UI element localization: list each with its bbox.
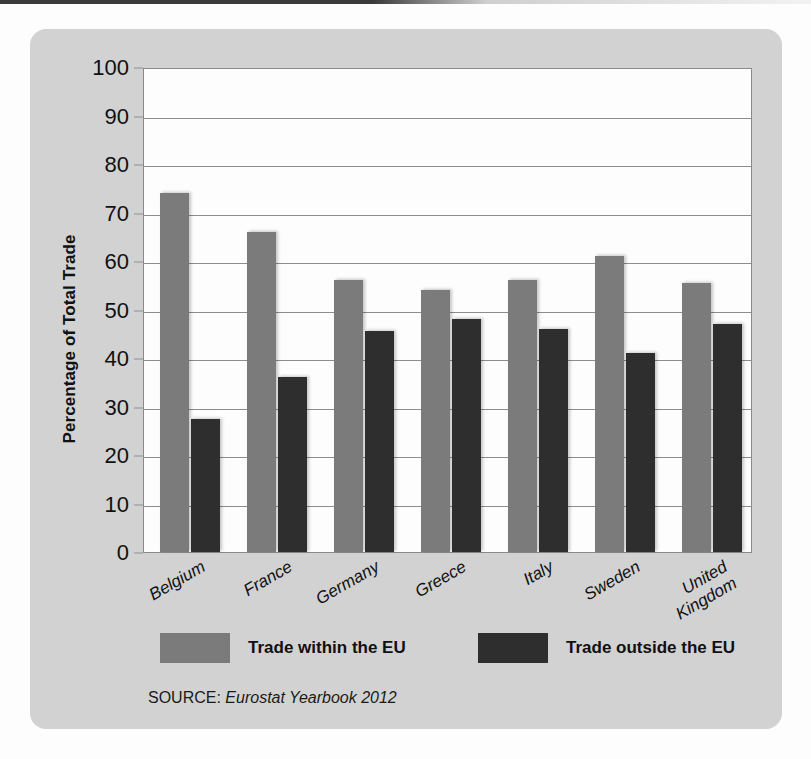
- y-axis-ticks: 0102030405060708090100: [30, 68, 143, 553]
- y-tick-label: 60: [105, 249, 129, 275]
- bar-group: [160, 69, 220, 552]
- x-axis-labels: BelgiumFranceGermanyGreeceItalySwedenUni…: [143, 557, 752, 637]
- bar-group: [682, 69, 742, 552]
- bar-group: [334, 69, 394, 552]
- bar-group: [508, 69, 568, 552]
- y-tick-mark: [134, 310, 143, 311]
- source-label: SOURCE:: [148, 689, 221, 706]
- y-tick-mark: [134, 262, 143, 263]
- bar-within-eu[interactable]: [334, 280, 363, 552]
- legend-item[interactable]: Trade outside the EU: [478, 633, 735, 663]
- source-note: SOURCE: Eurostat Yearbook 2012: [148, 689, 397, 707]
- bar-outside-eu[interactable]: [278, 377, 307, 552]
- y-tick-label: 20: [105, 443, 129, 469]
- x-tick-label: United Kingdom: [634, 557, 740, 640]
- x-tick-label: Sweden: [547, 557, 643, 623]
- bar-series-container: [144, 69, 751, 552]
- x-tick-label: Germany: [286, 557, 382, 623]
- bar-group: [247, 69, 307, 552]
- bar-outside-eu[interactable]: [191, 419, 220, 552]
- source-title: Eurostat Yearbook 2012: [225, 689, 396, 706]
- bar-outside-eu[interactable]: [365, 331, 394, 552]
- bar-outside-eu[interactable]: [539, 329, 568, 552]
- y-tick-label: 30: [105, 395, 129, 421]
- bar-outside-eu[interactable]: [626, 353, 655, 552]
- y-tick-mark: [134, 359, 143, 360]
- y-tick-label: 0: [117, 540, 129, 566]
- y-tick-mark: [134, 213, 143, 214]
- y-tick-mark: [134, 116, 143, 117]
- y-tick-mark: [134, 68, 143, 69]
- bar-outside-eu[interactable]: [713, 324, 742, 552]
- y-tick-label: 80: [105, 152, 129, 178]
- y-tick-label: 40: [105, 346, 129, 372]
- x-tick-label: Italy: [460, 557, 556, 623]
- y-tick-label: 90: [105, 104, 129, 130]
- scan-artifact-strip: [0, 0, 811, 4]
- chart-card: Percentage of Total Trade 01020304050607…: [30, 29, 782, 729]
- y-tick-label: 100: [92, 55, 129, 81]
- y-tick-mark: [134, 407, 143, 408]
- y-tick-label: 50: [105, 298, 129, 324]
- legend-swatch-within-eu: [160, 633, 230, 663]
- y-tick-mark: [134, 456, 143, 457]
- bar-within-eu[interactable]: [247, 232, 276, 552]
- y-tick-mark: [134, 165, 143, 166]
- bar-group: [421, 69, 481, 552]
- bar-within-eu[interactable]: [160, 193, 189, 552]
- x-tick-label: Greece: [373, 557, 469, 623]
- y-tick-mark: [134, 553, 143, 554]
- x-tick-label: Belgium: [112, 557, 208, 623]
- y-tick-label: 10: [105, 492, 129, 518]
- legend-swatch-outside-eu: [478, 633, 548, 663]
- x-tick-label: France: [199, 557, 295, 623]
- legend-item[interactable]: Trade within the EU: [160, 633, 406, 663]
- bar-group: [595, 69, 655, 552]
- bar-within-eu[interactable]: [508, 280, 537, 552]
- bar-within-eu[interactable]: [595, 256, 624, 552]
- bar-outside-eu[interactable]: [452, 319, 481, 552]
- legend-label: Trade outside the EU: [566, 638, 735, 658]
- y-tick-mark: [134, 504, 143, 505]
- bar-chart-figure: Percentage of Total Trade 01020304050607…: [30, 29, 782, 729]
- legend-label: Trade within the EU: [248, 638, 406, 658]
- chart-legend: Trade within the EUTrade outside the EU: [143, 633, 752, 677]
- y-tick-label: 70: [105, 201, 129, 227]
- bar-within-eu[interactable]: [421, 290, 450, 552]
- bar-within-eu[interactable]: [682, 283, 711, 552]
- plot-area: [143, 68, 752, 553]
